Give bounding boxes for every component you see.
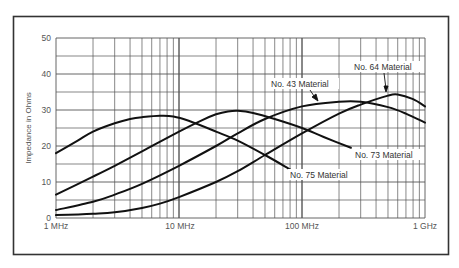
label-no73: No. 73 Material xyxy=(355,150,413,160)
y-axis-label: Impedance in Ohms xyxy=(24,92,33,164)
x-tick-10mhz: 10 MHz xyxy=(165,221,194,231)
x-tick-1ghz: 1 GHz xyxy=(413,221,437,231)
y-tick-40: 40 xyxy=(42,69,52,79)
x-tick-100mhz: 100 MHz xyxy=(285,221,319,231)
x-tick-1mhz: 1 MHz xyxy=(44,221,69,231)
y-tick-30: 30 xyxy=(42,105,52,115)
y-tick-10: 10 xyxy=(42,177,52,187)
label-no75: No. 75 Material xyxy=(290,170,348,180)
y-tick-50: 50 xyxy=(42,33,52,43)
y-tick-20: 20 xyxy=(42,141,52,151)
figure-frame xyxy=(14,17,449,255)
chart: Impedance in Ohms 50 40 30 20 10 0 1 MHz… xyxy=(0,0,459,268)
label-no64: No. 64 Material xyxy=(354,62,412,72)
label-no43: No. 43 Material xyxy=(271,79,329,89)
